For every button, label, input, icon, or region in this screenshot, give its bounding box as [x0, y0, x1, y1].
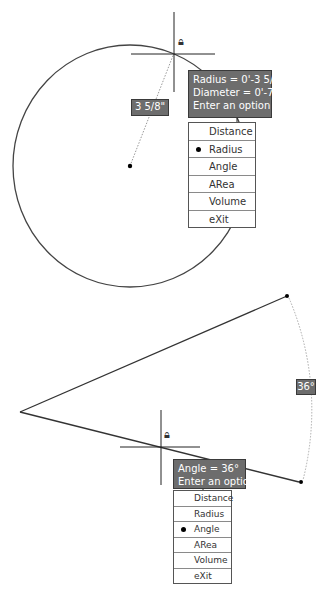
menu-item-area[interactable]: ARea [174, 538, 231, 554]
menu-item-area[interactable]: ARea [189, 176, 255, 194]
tooltip-line-prompt: Enter an option [178, 475, 241, 488]
menu-item-volume[interactable]: Volume [189, 193, 255, 211]
circle-center-point [128, 164, 132, 168]
menu-item-exit[interactable]: eXit [189, 211, 255, 229]
angle-endpoint-top [285, 294, 289, 298]
menu-item-exit[interactable]: eXit [174, 569, 231, 585]
tooltip-line-prompt: Enter an option [193, 99, 267, 112]
options-menu-lower: Distance Radius Angle ARea Volume eXit [173, 490, 232, 584]
menu-item-radius[interactable]: Radius [174, 507, 231, 523]
snap-lock-icon: 🔒︎ [164, 429, 170, 440]
menu-item-angle[interactable]: Angle [174, 522, 231, 538]
menu-item-volume[interactable]: Volume [174, 553, 231, 569]
options-menu-upper: Distance Radius Angle ARea Volume eXit [188, 122, 256, 228]
angle-dimension-label[interactable]: 36° [296, 379, 316, 395]
angle-endpoint-bottom [299, 480, 303, 484]
selected-bullet-icon [181, 527, 186, 532]
tooltip-line-radius: Radius = 0'-3 5/8" [193, 73, 267, 86]
snap-lock-icon: 🔒︎ [178, 36, 184, 47]
measure-tooltip-lower: Angle = 36° Enter an option [173, 459, 246, 489]
menu-item-angle[interactable]: Angle [189, 158, 255, 176]
tooltip-line-angle: Angle = 36° [178, 462, 241, 475]
radius-dimension-label[interactable]: 3 5/8" [131, 99, 169, 116]
angle-geometry[interactable] [20, 296, 299, 482]
menu-item-radius[interactable]: Radius [189, 141, 255, 159]
tooltip-line-diameter: Diameter = 0'-7 5/16" [193, 86, 267, 99]
menu-item-distance[interactable]: Distance [174, 491, 231, 507]
menu-item-distance[interactable]: Distance [189, 123, 255, 141]
selected-bullet-icon [196, 147, 201, 152]
measure-tooltip-upper: Radius = 0'-3 5/8" Diameter = 0'-7 5/16"… [188, 70, 272, 118]
